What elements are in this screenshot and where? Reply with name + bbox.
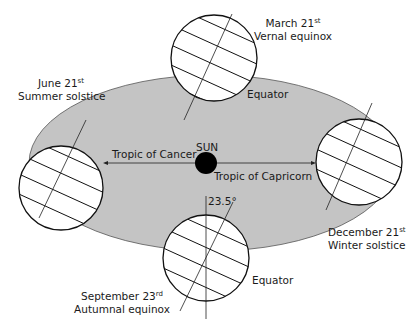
- march-event: Vernal equinox: [254, 30, 332, 42]
- label-march: March 21st Vernal equinox: [248, 17, 338, 43]
- march-date: March 21: [265, 17, 314, 29]
- december-date: December 21: [328, 226, 399, 238]
- june-event: Summer solstice: [18, 90, 105, 102]
- sun-label: SUN: [196, 141, 218, 154]
- tilt-angle-label: 23.5°: [208, 195, 237, 208]
- september-event: Autumnal equinox: [74, 303, 170, 315]
- orbit-diagram: [0, 0, 417, 331]
- equator-bottom-label: Equator: [252, 274, 293, 287]
- tropic-cancer-label: Tropic of Cancer: [112, 148, 197, 161]
- label-december: December 21st Winter solstice: [328, 226, 406, 252]
- september-date: September 23: [81, 290, 156, 302]
- label-june: June 21st Summer solstice: [18, 77, 104, 103]
- june-date: June 21: [38, 77, 78, 89]
- tropic-capricorn-label: Tropic of Capricorn: [214, 170, 312, 183]
- december-event: Winter solstice: [328, 239, 406, 251]
- label-september: September 23rd Autumnal equinox: [72, 290, 172, 316]
- equator-top-label: Equator: [247, 88, 288, 101]
